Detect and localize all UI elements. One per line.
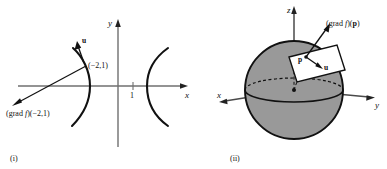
level-curve-right-branch: [147, 48, 168, 126]
gradient-vector-label: (grad f)(p): [326, 19, 360, 28]
gradient-label-prefix: (grad: [326, 19, 345, 28]
caption-figure-ii: (ii): [230, 154, 240, 163]
x-tick-label-1: 1: [130, 91, 134, 100]
gradient-label-prefix: (grad: [6, 109, 25, 118]
svg-text:(grad f)(−2,1): (grad f)(−2,1): [6, 109, 50, 118]
x-axis: [18, 83, 188, 89]
unit-vector-u-label: u: [324, 63, 328, 72]
x-axis-label: x: [216, 90, 221, 100]
svg-text:(grad f)(p): (grad f)(p): [326, 19, 360, 28]
x-axis-label: x: [184, 90, 189, 100]
gradient-label-suffix: )(−2,1): [27, 109, 50, 118]
caption-figure-i: (i): [10, 154, 18, 163]
sphere-center-dot: [292, 88, 296, 92]
point-p-label: p: [298, 55, 302, 64]
point-label: (−2,1): [88, 61, 108, 70]
y-axis-label: y: [107, 18, 112, 28]
unit-vector-u-label: u: [82, 36, 86, 45]
level-curve-left-branch: [72, 48, 90, 126]
y-axis-label: y: [374, 100, 379, 110]
figure-pair: y x 1 (−2,1) u (grad f)(−2,1) (i): [0, 0, 387, 169]
y-axis: [115, 19, 121, 147]
gradient-vector-label: (grad f)(−2,1): [6, 109, 50, 118]
panel-figure-ii: z y x p u (grad f)(p) (ii): [193, 0, 387, 169]
gradient-label-close: ): [357, 19, 360, 28]
z-axis-label: z: [286, 5, 291, 15]
panel-figure-i: y x 1 (−2,1) u (grad f)(−2,1) (i): [0, 0, 193, 169]
